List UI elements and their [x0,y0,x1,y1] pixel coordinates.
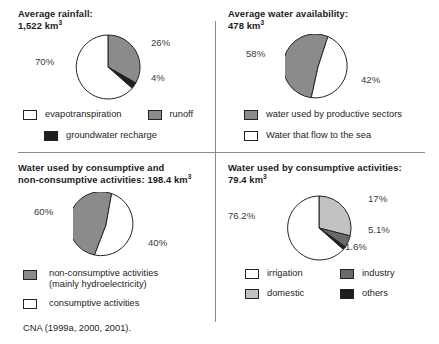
swatch-white-icon [23,299,37,309]
legend-availability-row2: Water that flow to the sea [244,130,371,141]
legend-item-productive-sectors: water used by productive sectors [244,109,402,120]
legend-label-groundwater-recharge: groundwater recharge [66,130,157,141]
pct-label-irrigation: 76.2% [228,210,255,221]
panel-title-rainfall: Average rainfall:1,522 km3 [18,8,210,32]
pct-label-runoff: 26% [151,37,170,48]
consumptive-pie-svg [283,192,355,264]
swatch-black-icon [340,289,354,299]
legend-item-others: others [340,288,388,299]
rainfall-pie-svg [75,34,141,100]
both-uses-pie-svg [73,192,139,258]
swatch-white-icon [244,131,258,141]
legend-both-uses-row1: non-consumptive activities (mainly hydro… [23,268,158,291]
pct-label-productive-sectors: 58% [246,48,265,59]
panel-average-water-availability: Average water availability:478 km3 58% 4… [228,8,433,148]
legend-label-productive-sectors: water used by productive sectors [266,109,402,120]
pie-chart-both-uses [73,192,139,258]
rainfall-title-line2: 1,522 km [18,20,58,31]
panel-title-availability: Average water availability:478 km3 [228,8,433,32]
availability-title-line1: Average water availability: [228,8,348,19]
legend-label-domestic: domestic [267,288,304,299]
legend-availability-row1: water used by productive sectors [244,109,402,120]
swatch-gray-icon [244,110,258,120]
water-balance-pie-figure: Average rainfall:1,522 km3 70% 26% 4% ev… [0,0,439,344]
legend-item-runoff: runoff [148,109,194,120]
pct-label-others: 1.6% [345,241,367,252]
legend-label-evapotranspiration: evapotranspiration [45,109,122,120]
source-note: CNA (1999a, 2000, 2001). [23,323,131,333]
legend-item-groundwater-recharge: groundwater recharge [44,130,157,141]
panel-consumptive-and-non-consumptive: Water used by consumptive andnon-consump… [18,162,218,337]
both-uses-title-superscript: 3 [188,173,192,180]
legend-label-industry: industry [362,268,395,279]
swatch-white-icon [245,269,259,279]
pie-chart-consumptive [283,192,355,264]
swatch-gray-icon [23,270,37,280]
pct-label-consumptive: 40% [148,237,167,248]
rainfall-title-line1: Average rainfall: [18,8,93,19]
legend-consumptive-row2: domestic others [245,288,388,299]
panel-title-both-uses: Water used by consumptive andnon-consump… [18,162,218,186]
legend-label-runoff: runoff [170,109,194,120]
pie-chart-availability [285,34,351,100]
both-uses-title-line2: non-consumptive activities: 198.4 km [18,174,188,185]
legend-label-irrigation: irrigation [267,268,303,279]
both-uses-title-line1: Water used by consumptive and [18,162,164,173]
legend-label-flow-to-sea: Water that flow to the sea [266,130,371,141]
rainfall-title-superscript: 3 [58,19,62,26]
legend-rainfall-row2: groundwater recharge [44,130,157,141]
pct-label-flow-to-sea: 42% [361,74,380,85]
legend-item-evapotranspiration: evapotranspiration [23,109,122,120]
legend-both-uses-row2: consumptive activities [23,298,139,309]
legend-rainfall-row1: evapotranspiration runoff [23,109,193,120]
legend-label-others: others [362,288,388,299]
availability-pie-svg [285,34,351,100]
panel-average-rainfall: Average rainfall:1,522 km3 70% 26% 4% ev… [18,8,210,148]
legend-item-domestic: domestic [245,288,340,299]
swatch-light-gray-icon [245,289,259,299]
panel-consumptive-activities: Water used by consumptive activities:79.… [228,162,436,337]
pct-label-evapotranspiration: 70% [35,56,54,67]
legend-label-consumptive: consumptive activities [49,298,139,309]
legend-item-irrigation: irrigation [245,268,340,279]
legend-item-consumptive: consumptive activities [23,298,139,309]
pct-label-non-consumptive: 60% [34,206,53,217]
pct-label-domestic: 17% [368,193,387,204]
legend-item-flow-to-sea: Water that flow to the sea [244,130,371,141]
availability-title-superscript: 3 [260,19,264,26]
legend-consumptive-row1: irrigation industry [245,268,395,279]
pct-label-industry: 5.1% [368,224,390,235]
legend-item-industry: industry [340,268,395,279]
swatch-black-icon [44,131,58,141]
consumptive-title-line1: Water used by consumptive activities: [228,162,402,173]
availability-title-line2: 478 km [228,20,260,31]
legend-item-non-consumptive: non-consumptive activities (mainly hydro… [23,268,158,291]
pct-label-groundwater-recharge: 4% [151,72,165,83]
panel-title-consumptive: Water used by consumptive activities:79.… [228,162,436,186]
pie-chart-rainfall [75,34,141,100]
swatch-gray-icon [148,110,162,120]
horizontal-divider [18,152,425,153]
consumptive-title-superscript: 3 [263,173,267,180]
swatch-white-icon [23,110,37,120]
legend-label-non-consumptive: non-consumptive activities (mainly hydro… [49,268,158,291]
consumptive-title-line2: 79.4 km [228,174,263,185]
swatch-dark-gray-icon [340,269,354,279]
